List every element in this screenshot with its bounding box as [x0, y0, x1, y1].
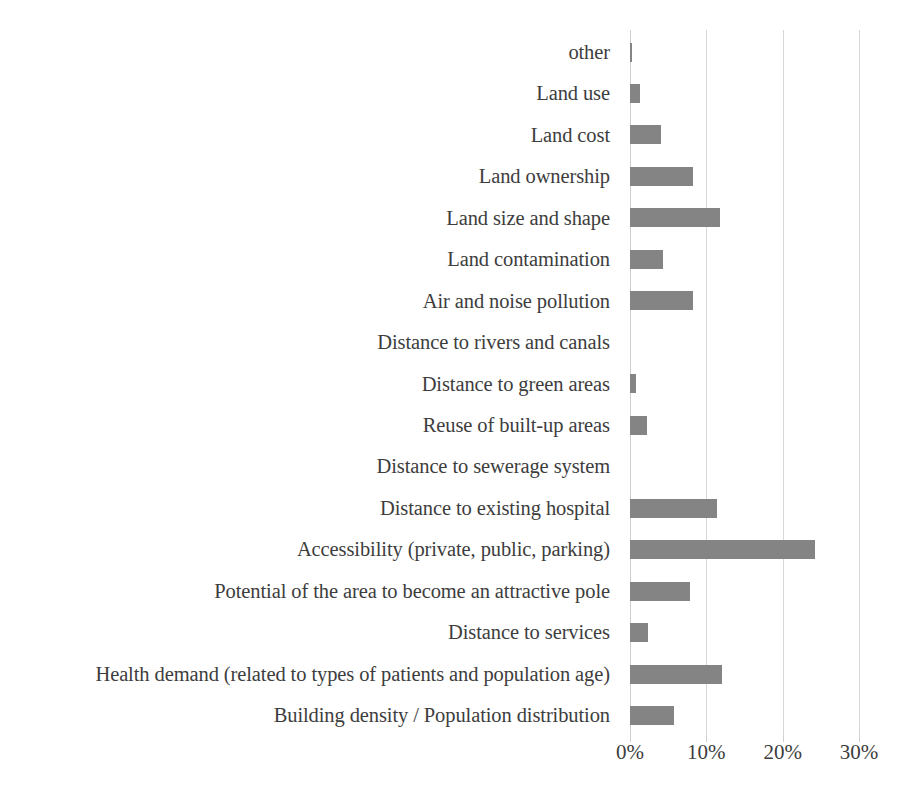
bar-row: [630, 569, 859, 613]
bar-row: [630, 611, 859, 655]
category-label: Accessibility (private, public, parking): [0, 528, 620, 572]
bar-chart: otherLand useLand costLand ownershipLand…: [0, 0, 916, 790]
bar[interactable]: [630, 208, 720, 227]
bar[interactable]: [630, 665, 722, 684]
bar[interactable]: [630, 499, 717, 518]
x-tick-label: 0%: [616, 742, 644, 763]
bar[interactable]: [630, 623, 648, 642]
category-label: Building density / Population distributi…: [0, 694, 620, 738]
bar-row: [630, 362, 859, 406]
category-label: Land ownership: [0, 154, 620, 198]
bar[interactable]: [630, 706, 674, 725]
category-label: Health demand (related to types of patie…: [0, 652, 620, 696]
category-label: Air and noise pollution: [0, 279, 620, 323]
category-axis-labels: otherLand useLand costLand ownershipLand…: [0, 30, 620, 735]
x-tick-label: 30%: [840, 742, 879, 763]
bar[interactable]: [630, 374, 636, 393]
bar[interactable]: [630, 540, 815, 559]
bar-row: [630, 279, 859, 323]
bar[interactable]: [630, 43, 632, 62]
category-label: Land size and shape: [0, 196, 620, 240]
bar-rows: [630, 30, 859, 735]
category-label: Distance to services: [0, 611, 620, 655]
category-label: Potential of the area to become an attra…: [0, 569, 620, 613]
x-tick-label: 10%: [687, 742, 726, 763]
category-label: Land contamination: [0, 237, 620, 281]
category-label: Distance to sewerage system: [0, 445, 620, 489]
bar-row: [630, 694, 859, 738]
bar-row: [630, 30, 859, 74]
bar-row: [630, 196, 859, 240]
gridline-30pct: [859, 30, 860, 735]
bar-row: [630, 237, 859, 281]
bar[interactable]: [630, 125, 661, 144]
bar-row: [630, 154, 859, 198]
bar-row: [630, 528, 859, 572]
category-label: Distance to green areas: [0, 362, 620, 406]
bar-row: [630, 113, 859, 157]
category-label: Land cost: [0, 113, 620, 157]
x-axis-tick-labels: 0%10%20%30%: [0, 742, 916, 776]
category-label: Land use: [0, 71, 620, 115]
bar-row: [630, 403, 859, 447]
category-label: other: [0, 30, 620, 74]
category-label: Distance to rivers and canals: [0, 320, 620, 364]
bar[interactable]: [630, 250, 663, 269]
bar[interactable]: [630, 167, 693, 186]
bar[interactable]: [630, 416, 647, 435]
bar-row: [630, 652, 859, 696]
category-label: Reuse of built-up areas: [0, 403, 620, 447]
bar[interactable]: [630, 291, 693, 310]
category-label: Distance to existing hospital: [0, 486, 620, 530]
x-tick-label: 20%: [763, 742, 802, 763]
plot-area: [630, 30, 859, 735]
bar-row: [630, 486, 859, 530]
bar-row: [630, 320, 859, 364]
bar[interactable]: [630, 582, 690, 601]
bar[interactable]: [630, 84, 640, 103]
bar-row: [630, 71, 859, 115]
bar-row: [630, 445, 859, 489]
